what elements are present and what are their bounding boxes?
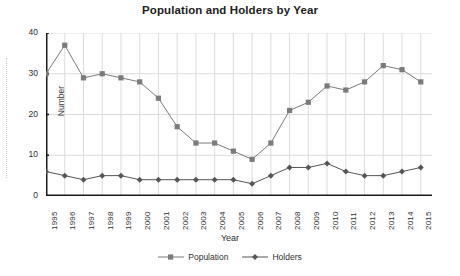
- data-point-population: [381, 63, 386, 68]
- x-tick-label: 1999: [124, 194, 133, 230]
- x-tick-label: 1997: [87, 194, 96, 230]
- x-tick-label: 2006: [256, 194, 265, 230]
- data-point-population: [418, 79, 423, 84]
- data-point-holders: [212, 177, 218, 183]
- data-point-population: [193, 140, 198, 145]
- x-tick-label: 2010: [331, 194, 340, 230]
- x-tick-label: 2007: [274, 194, 283, 230]
- data-point-holders: [80, 177, 86, 183]
- x-tick-label: 2005: [237, 194, 246, 230]
- y-tick-label: 0: [12, 191, 38, 200]
- data-point-holders: [99, 173, 105, 179]
- chart-title: Population and Holders by Year: [0, 4, 460, 16]
- data-point-holders: [268, 173, 274, 179]
- x-tick-label: 2003: [199, 194, 208, 230]
- x-tick-label: 1995: [50, 194, 59, 230]
- data-point-population: [362, 79, 367, 84]
- data-point-population: [81, 75, 86, 80]
- data-point-population: [118, 75, 123, 80]
- data-point-holders: [343, 169, 349, 175]
- data-point-holders: [324, 160, 330, 166]
- y-tick-label: 40: [12, 28, 38, 37]
- y-tick-label: 30: [12, 69, 38, 78]
- data-point-holders: [305, 164, 311, 170]
- x-tick-label: 2002: [181, 194, 190, 230]
- data-point-holders: [174, 177, 180, 183]
- y-axis-title: Number: [56, 61, 66, 141]
- data-point-population: [137, 79, 142, 84]
- legend-swatch-holders: [242, 252, 268, 262]
- data-point-population: [287, 108, 292, 113]
- data-point-holders: [362, 173, 368, 179]
- plot-area: Number: [46, 33, 432, 196]
- x-tick-label: 2004: [218, 194, 227, 230]
- data-point-population: [250, 157, 255, 162]
- data-point-holders: [155, 177, 161, 183]
- page-edge-artifact: [6, 58, 8, 178]
- legend-label: Population: [188, 253, 228, 262]
- chart-container: Population and Holders by Year 010203040…: [0, 0, 460, 276]
- data-point-holders: [62, 173, 68, 179]
- data-point-population: [212, 140, 217, 145]
- x-axis-tick-labels: 1995199619971998199920002001200220032004…: [46, 198, 432, 234]
- legend-item-population[interactable]: Population: [158, 252, 228, 262]
- x-tick-label: 2012: [368, 194, 377, 230]
- x-tick-label: 1996: [68, 194, 77, 230]
- data-point-holders: [287, 164, 293, 170]
- data-point-population: [62, 43, 67, 48]
- y-axis-tick-labels: 010203040: [12, 33, 38, 196]
- data-point-population: [100, 71, 105, 76]
- plot-svg: [46, 33, 432, 196]
- data-point-holders: [193, 177, 199, 183]
- x-tick-label: 2015: [424, 194, 433, 230]
- x-tick-label: 2000: [143, 194, 152, 230]
- data-point-population: [343, 87, 348, 92]
- y-tick-label: 20: [12, 110, 38, 119]
- data-point-population: [306, 100, 311, 105]
- data-point-population: [231, 149, 236, 154]
- data-point-holders: [418, 164, 424, 170]
- data-point-population: [46, 71, 49, 76]
- x-axis-title: Year: [0, 233, 460, 243]
- data-point-holders: [249, 181, 255, 187]
- data-point-population: [399, 67, 404, 72]
- x-tick-label: 2001: [162, 194, 171, 230]
- x-tick-label: 2011: [349, 194, 358, 230]
- chart-legend: PopulationHolders: [0, 252, 460, 262]
- x-tick-label: 2009: [312, 194, 321, 230]
- data-point-population: [175, 124, 180, 129]
- data-point-holders: [137, 177, 143, 183]
- legend-swatch-population: [158, 252, 184, 262]
- data-point-population: [268, 140, 273, 145]
- data-point-population: [324, 83, 329, 88]
- data-point-population: [156, 96, 161, 101]
- x-tick-label: 1998: [106, 194, 115, 230]
- data-point-holders: [399, 169, 405, 175]
- data-point-holders: [118, 173, 124, 179]
- y-tick-label: 10: [12, 150, 38, 159]
- x-tick-label: 2013: [387, 194, 396, 230]
- data-point-holders: [230, 177, 236, 183]
- x-tick-label: 2008: [293, 194, 302, 230]
- legend-item-holders[interactable]: Holders: [242, 252, 301, 262]
- legend-label: Holders: [272, 253, 301, 262]
- x-tick-label: 2014: [406, 194, 415, 230]
- data-point-holders: [380, 173, 386, 179]
